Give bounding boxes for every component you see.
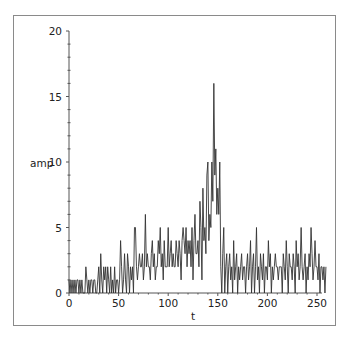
x-axis-label: t (191, 310, 195, 322)
x-tick-label: 200 (257, 297, 277, 309)
x-tick-label: 100 (158, 297, 178, 309)
x-tick-label: 150 (208, 297, 228, 309)
amp-series-line (69, 83, 326, 293)
x-tick-label: 50 (112, 297, 125, 309)
y-tick-label: 0 (55, 287, 62, 299)
y-axis-label: amp (30, 157, 54, 169)
x-tick-label: 0 (66, 297, 73, 309)
y-tick-label: 15 (49, 91, 62, 103)
y-tick-label: 20 (49, 25, 62, 37)
x-tick-label: 250 (307, 297, 327, 309)
line-chart: 05101520 050100150200250 amp t (0, 0, 350, 346)
y-tick-label: 5 (55, 222, 62, 234)
x-axis: 050100150200250 (66, 293, 327, 309)
